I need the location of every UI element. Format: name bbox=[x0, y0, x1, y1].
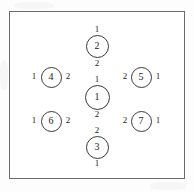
node-right-lower-port-right: 1 bbox=[153, 116, 163, 125]
node-left-upper-port-left: 1 bbox=[29, 72, 39, 81]
node-left-upper[interactable]: 4 bbox=[41, 67, 62, 88]
node-right-lower[interactable]: 7 bbox=[131, 111, 152, 132]
paper-smudge bbox=[14, 2, 54, 9]
node-center[interactable]: 1 bbox=[85, 85, 110, 110]
node-top[interactable]: 2 bbox=[86, 35, 109, 58]
node-right-lower-port-left: 2 bbox=[120, 116, 130, 125]
node-left-upper-port-right: 2 bbox=[63, 72, 73, 81]
node-bottom[interactable]: 3 bbox=[86, 136, 109, 159]
paper-smudge bbox=[0, 60, 8, 90]
node-center-port-bottom: 2 bbox=[92, 110, 102, 119]
node-center-label: 1 bbox=[95, 92, 100, 102]
node-top-port-top: 1 bbox=[92, 25, 102, 34]
node-right-lower-label: 7 bbox=[139, 116, 144, 126]
node-left-lower-port-left: 1 bbox=[29, 116, 39, 125]
node-right-upper-port-left: 2 bbox=[120, 72, 130, 81]
node-top-port-bottom: 2 bbox=[92, 59, 102, 68]
node-right-upper-port-right: 1 bbox=[153, 72, 163, 81]
node-bottom-port-top: 2 bbox=[92, 126, 102, 135]
figure-root: 212112321412612521721 bbox=[0, 0, 194, 192]
node-center-port-top: 1 bbox=[92, 75, 102, 84]
node-left-upper-label: 4 bbox=[49, 72, 54, 82]
node-top-label: 2 bbox=[95, 41, 100, 51]
node-left-lower[interactable]: 6 bbox=[41, 111, 62, 132]
node-left-lower-label: 6 bbox=[49, 116, 54, 126]
node-right-upper-label: 5 bbox=[139, 72, 144, 82]
node-left-lower-port-right: 2 bbox=[63, 116, 73, 125]
node-bottom-label: 3 bbox=[95, 142, 100, 152]
paper-smudge bbox=[150, 182, 186, 190]
node-bottom-port-bottom: 1 bbox=[92, 159, 102, 168]
node-right-upper[interactable]: 5 bbox=[131, 67, 152, 88]
